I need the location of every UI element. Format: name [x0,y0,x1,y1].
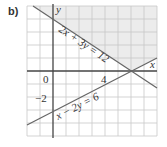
graph: y x 0 4 −2 2x + 3y = 12 x − 2y = 6 [0,0,167,147]
shaded-region [33,6,157,71]
x-tick-label: 4 [101,73,107,85]
origin-label: 0 [43,73,49,85]
equation-label-2: x − 2y = 6 [53,90,101,123]
y-tick-label: −2 [35,92,47,104]
y-axis-label: y [55,3,61,15]
x-axis-label: x [149,58,155,70]
